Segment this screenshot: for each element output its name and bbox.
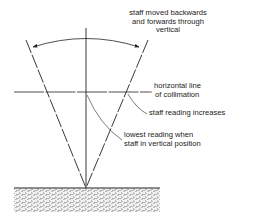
collimation-line2: of collimation xyxy=(154,91,201,100)
staff-moved-line3: vertical xyxy=(112,26,224,35)
staff-tilting-diagram: staff moved backwards and forwards throu… xyxy=(0,0,254,223)
staff-reading-increases-label: staff reading increases xyxy=(149,109,225,118)
lowest-reading-label: lowest reading when staff in vertical po… xyxy=(124,131,201,148)
lowest-reading-line2: staff in vertical position xyxy=(124,140,201,149)
collimation-label: horizontal line of collimation xyxy=(154,82,201,99)
leader-staff-reading xyxy=(128,94,147,114)
staff-tilted-back-line xyxy=(26,40,86,188)
staff-tilted-forward-line xyxy=(86,40,148,188)
ground xyxy=(14,188,160,212)
leader-lowest-reading xyxy=(87,95,122,140)
staff-moved-label: staff moved backwards and forwards throu… xyxy=(112,9,224,35)
